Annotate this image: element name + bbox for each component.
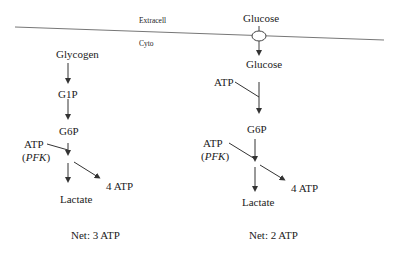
right-net: Net: 2 ATP [249, 229, 298, 241]
right-glucose-extracellular: Glucose [243, 12, 279, 24]
right-atp-input: ATP [203, 137, 223, 149]
left-g1p: G1P [58, 88, 78, 100]
cytoplasm-label: Cyto [139, 38, 154, 50]
right-enzyme: PFK [205, 150, 226, 162]
left-atp-output: 4 ATP [106, 180, 133, 192]
atp-input-line-hk [235, 82, 259, 97]
arrow-4atp-left [74, 162, 98, 177]
right-atp-hexokinase: ATP [214, 76, 234, 88]
left-net: Net: 3 ATP [71, 229, 120, 241]
right-g6p: G6P [247, 123, 267, 135]
glucose-transporter [252, 31, 266, 41]
arrow-4atp-right [260, 165, 283, 179]
right-glucose-intracellular: Glucose [246, 58, 282, 70]
atp-input-line-left [47, 144, 68, 150]
right-enzyme-label: (PFK) [201, 150, 229, 162]
left-enzyme: PFK [26, 151, 47, 163]
right-atp-output: 4 ATP [291, 182, 318, 194]
extracellular-label: Extracell [139, 15, 166, 27]
left-lactate: Lactate [60, 193, 92, 205]
left-glycogen: Glycogen [56, 48, 99, 60]
left-atp-input: ATP [24, 138, 44, 150]
left-enzyme-label: (PFK) [22, 151, 50, 163]
right-lactate: Lactate [242, 196, 274, 208]
cell-membrane [15, 27, 384, 40]
left-g6p: G6P [59, 125, 79, 137]
atp-input-line-right [229, 143, 255, 159]
